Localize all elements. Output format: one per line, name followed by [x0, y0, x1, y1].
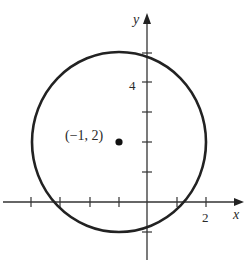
center-point-dot	[115, 138, 122, 145]
x-axis-label: x	[232, 207, 240, 222]
y-axis-arrow-icon	[143, 13, 151, 24]
x-axis-arrow-icon	[234, 198, 244, 206]
x-axis	[3, 197, 244, 207]
y-axis	[142, 13, 152, 260]
center-point-label: (−1, 2)	[65, 128, 104, 144]
y-tick-label-4: 4	[129, 78, 136, 93]
coordinate-plane: (−1, 2) 4 2 x y	[0, 0, 246, 275]
x-tick-label-2: 2	[202, 210, 209, 225]
y-axis-label: y	[131, 12, 140, 27]
